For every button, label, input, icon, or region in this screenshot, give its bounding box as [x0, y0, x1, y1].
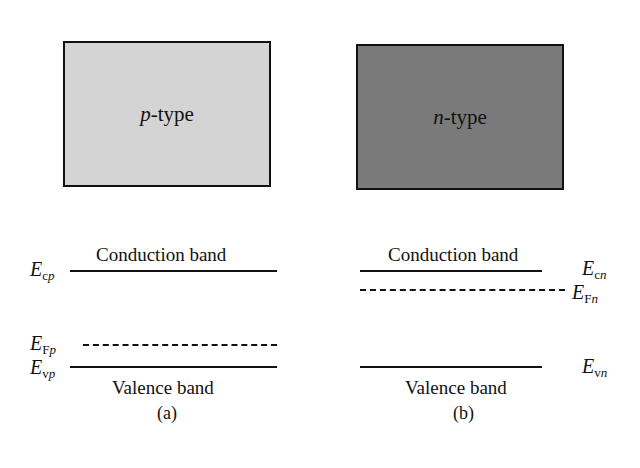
n-type-block: n-type [356, 44, 564, 190]
evp-label: Evp [30, 356, 55, 382]
caption-a: (a) [157, 403, 177, 424]
evn-label: Evn [582, 355, 607, 381]
valence-band-edge-a [70, 366, 277, 368]
efn-label: EFn [572, 281, 598, 307]
p-type-label: p-type [140, 102, 194, 127]
valence-band-label-b: Valence band [405, 377, 507, 399]
efp-label: EFp [30, 332, 56, 358]
caption-b: (b) [453, 403, 474, 424]
fermi-level-b [360, 289, 565, 291]
n-type-label: n-type [433, 105, 487, 130]
valence-band-label-a: Valence band [112, 377, 214, 399]
ecn-label: Ecn [582, 257, 607, 283]
conduction-band-label-a: Conduction band [96, 244, 226, 266]
fermi-level-a [83, 344, 277, 346]
conduction-band-edge-a [70, 270, 277, 272]
conduction-band-label-b: Conduction band [388, 244, 518, 266]
conduction-band-edge-b [360, 270, 542, 272]
p-type-block: p-type [63, 41, 271, 187]
valence-band-edge-b [360, 366, 542, 368]
ecp-label: Ecp [30, 258, 55, 284]
